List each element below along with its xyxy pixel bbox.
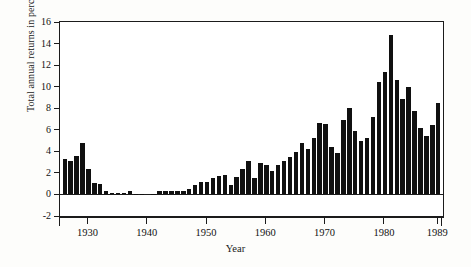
bar	[193, 185, 197, 195]
y-axis-tick	[54, 194, 60, 195]
bar	[418, 128, 422, 194]
bar	[163, 191, 167, 195]
bar	[412, 111, 416, 195]
x-axis-endcap	[441, 217, 442, 226]
bar	[312, 138, 316, 195]
bar	[63, 159, 67, 195]
bar	[157, 191, 161, 194]
bar	[110, 193, 114, 195]
bar	[68, 161, 72, 194]
x-axis-tick-label: 1940	[136, 227, 157, 238]
bar	[140, 194, 144, 195]
bar	[323, 124, 327, 195]
bar	[329, 147, 333, 194]
x-axis-endcap	[59, 217, 60, 226]
bar	[211, 178, 215, 194]
bar	[341, 120, 345, 194]
bar	[430, 125, 434, 194]
y-axis-tick	[54, 65, 60, 66]
bar	[270, 171, 274, 194]
bar	[377, 82, 381, 195]
y-axis-tick	[54, 108, 60, 109]
bar	[217, 176, 221, 194]
chart-figure: Total annual returns in percent -2024681…	[0, 0, 471, 267]
x-axis-tick	[437, 217, 438, 224]
y-axis-tick-label: 16	[41, 17, 51, 27]
x-axis-tick-label: 1950	[196, 227, 217, 238]
x-axis-line	[59, 217, 444, 218]
bar	[288, 157, 292, 195]
x-axis-tick-label: 1930	[77, 227, 98, 238]
y-axis-tick-label: 6	[46, 125, 51, 135]
y-axis-tick-label: 4	[46, 146, 51, 156]
bar	[306, 149, 310, 195]
x-axis-tick-label: 1960	[255, 227, 276, 238]
y-axis-tick	[54, 129, 60, 130]
x-axis-tick	[146, 217, 147, 224]
y-axis-tick-label: 2	[46, 168, 51, 178]
bar	[169, 191, 173, 195]
bar	[104, 191, 108, 194]
bar	[128, 191, 132, 194]
bar	[264, 165, 268, 194]
bar	[98, 184, 102, 195]
bar	[347, 108, 351, 195]
bar	[187, 189, 191, 195]
y-axis-tick-label: -2	[43, 211, 51, 221]
bar	[294, 152, 298, 194]
bar	[151, 194, 155, 195]
bar	[359, 141, 363, 195]
bar-series	[60, 22, 443, 216]
bar	[424, 136, 428, 195]
bar	[371, 117, 375, 195]
bar	[175, 191, 179, 195]
bar	[436, 103, 440, 194]
bar	[406, 87, 410, 194]
bar	[282, 161, 286, 194]
bar	[240, 169, 244, 195]
bar	[134, 194, 138, 195]
bar	[258, 163, 262, 194]
bar	[199, 182, 203, 194]
x-axis-tick-label: 1970	[314, 227, 335, 238]
bar	[400, 99, 404, 194]
x-axis-tick-label: 1989	[427, 227, 448, 238]
bar	[353, 131, 357, 194]
bar	[229, 185, 233, 194]
bar	[317, 123, 321, 195]
x-axis-tick	[206, 217, 207, 224]
y-axis-tick	[54, 43, 60, 44]
y-axis-tick-label: 14	[41, 39, 51, 49]
plot-area: -20246810121416	[59, 21, 444, 217]
bar	[181, 191, 185, 195]
bar	[300, 143, 304, 194]
y-axis-tick	[54, 22, 60, 23]
bar	[395, 80, 399, 194]
y-axis-tick-label: 8	[46, 103, 51, 113]
bar	[335, 153, 339, 194]
bar	[252, 178, 256, 195]
bar	[86, 169, 90, 195]
bar	[74, 156, 78, 195]
x-axis-tick	[383, 217, 384, 224]
x-axis: 1930194019501960197019801989	[59, 217, 444, 243]
bar	[389, 35, 393, 194]
bar	[223, 175, 227, 194]
x-axis-tick	[87, 217, 88, 224]
y-axis-tick	[54, 151, 60, 152]
bar	[116, 193, 120, 195]
x-axis-title: Year	[0, 243, 471, 254]
y-axis-title: Total annual returns in percent	[25, 0, 36, 140]
bar	[92, 183, 96, 195]
bar	[234, 177, 238, 194]
x-axis-tick	[265, 217, 266, 224]
bar	[365, 138, 369, 195]
y-axis-tick	[54, 86, 60, 87]
bar	[80, 143, 84, 195]
bar	[246, 161, 250, 194]
bar	[383, 72, 387, 194]
x-axis-tick-label: 1980	[373, 227, 394, 238]
bar	[276, 165, 280, 195]
y-axis-tick	[54, 172, 60, 173]
bar	[122, 193, 126, 195]
